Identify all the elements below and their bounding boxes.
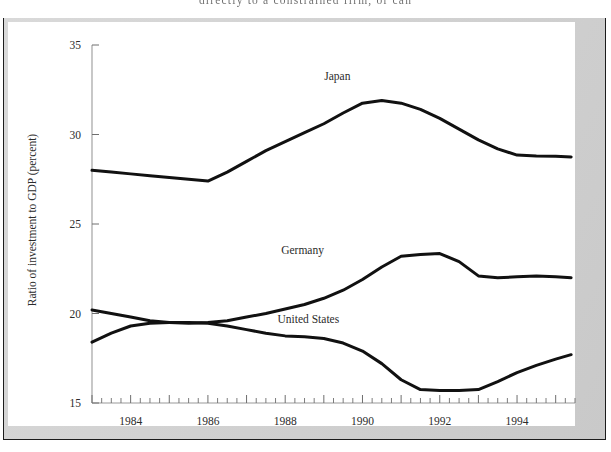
series-line-japan — [92, 100, 571, 181]
series-label-japan: Japan — [324, 70, 350, 83]
investment-gdp-line-chart: Ratio of investment to GDP (percent) 152… — [0, 0, 611, 452]
x-tick-label: 1994 — [506, 415, 529, 427]
series-label-germany: Germany — [281, 244, 324, 257]
y-tick-label: 35 — [70, 39, 82, 51]
x-tick-label: 1992 — [428, 415, 451, 427]
series-label-united-states: United States — [278, 313, 340, 325]
y-tick-label: 30 — [70, 129, 82, 141]
y-tick-label: 20 — [70, 308, 82, 320]
y-axis-title: Ratio of investment to GDP (percent) — [26, 80, 38, 360]
x-tick-label: 1986 — [196, 415, 219, 427]
x-tick-label: 1988 — [274, 415, 297, 427]
chart-canvas: 1520253035198419861988199019921994JapanG… — [0, 0, 611, 452]
y-tick-label: 15 — [70, 397, 82, 409]
series-line-united-states — [92, 322, 571, 390]
x-tick-label: 1984 — [119, 415, 142, 427]
x-tick-label: 1990 — [351, 415, 374, 427]
figure-page: directly to a constrained firm, or can R… — [0, 0, 611, 452]
y-tick-label: 25 — [70, 218, 82, 230]
